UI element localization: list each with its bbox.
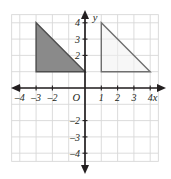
y-tick-label: –3 [69,132,80,143]
coordinate-plane-figure: –4–3–21234432–2–3–4 x y O [0,0,171,179]
y-tick-label: 3 [74,34,80,45]
y-axis-label: y [92,12,98,23]
left-triangle [36,23,85,72]
y-tick-label: 2 [75,50,80,61]
y-tick-label: –4 [69,148,80,159]
y-tick-label: –2 [69,115,80,126]
origin-label: O [72,92,80,103]
right-triangle [101,23,150,72]
x-tick-label: 1 [99,92,104,103]
x-tick-label: –4 [14,92,25,103]
x-tick-label: –3 [30,92,41,103]
y-tick-label: 4 [75,17,80,28]
x-tick-label: 3 [130,92,136,103]
coordinate-plane-svg: –4–3–21234432–2–3–4 x y O [0,0,171,179]
plotted-shapes [36,23,150,72]
x-tick-label: –2 [46,92,57,103]
x-axis-arrow-right [157,84,166,92]
x-axis-label: x [152,92,158,103]
y-axis-arrow-down [81,165,89,174]
x-tick-label: 2 [115,92,120,103]
